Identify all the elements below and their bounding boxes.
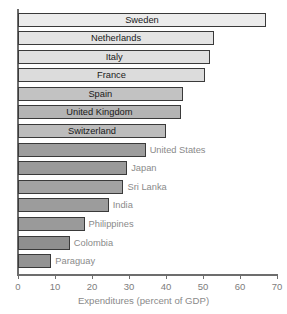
x-axis-tick-label: 60 [225,281,255,292]
bar-row: Japan [0,160,287,179]
bar-row: Italy [0,48,287,67]
bar-row: Spain [0,85,287,104]
x-axis-tick-label: 0 [3,281,33,292]
bar-label-inside: Netherlands [18,31,214,45]
bar-row: India [0,197,287,216]
bar[interactable] [18,254,51,268]
x-axis-tick-label: 20 [77,281,107,292]
bar-row: Netherlands [0,30,287,49]
x-axis-tick [277,274,278,279]
bar-label-outside: Paraguay [55,254,95,268]
bar-label-inside: France [18,68,205,82]
bar-label-inside: Italy [18,50,210,64]
bar-label-outside: Colombia [74,236,113,250]
bar-label-outside: India [113,198,133,212]
bar-row: Sweden [0,11,287,30]
plot-area: SwedenNetherlandsItalyFranceSpainUnited … [0,0,287,314]
bar-label-outside: United States [150,143,206,157]
bar-label-inside: Switzerland [18,124,166,138]
bar-label-inside: Sweden [18,13,266,27]
x-axis-tick [203,274,204,279]
x-axis-tick [18,274,19,279]
bar[interactable] [18,143,146,157]
bar-row: Switzerland [0,123,287,142]
bar[interactable] [18,236,70,250]
bar[interactable] [18,198,109,212]
x-axis-tick-label: 10 [40,281,70,292]
bar-chart: SwedenNetherlandsItalyFranceSpainUnited … [0,0,287,314]
bar-row: United Kingdom [0,104,287,123]
x-axis-tick-label: 70 [262,281,287,292]
bar-label-outside: Sri Lanka [127,180,166,194]
x-axis-title: Expenditures (percent of GDP) [0,295,287,306]
bar[interactable] [18,161,127,175]
bar[interactable] [18,180,123,194]
bar-label-inside: Spain [18,87,183,101]
x-axis-tick-label: 40 [151,281,181,292]
bar-row: France [0,67,287,86]
x-axis-tick [129,274,130,279]
x-axis-tick-label: 30 [114,281,144,292]
bar-label-outside: Japan [131,161,156,175]
bar-label-inside: United Kingdom [18,105,181,119]
x-axis-tick [166,274,167,279]
bars-layer: SwedenNetherlandsItalyFranceSpainUnited … [0,11,287,271]
x-axis-tick [55,274,56,279]
bar-row: United States [0,141,287,160]
bar-label-outside: Philippines [89,217,134,231]
bar-row: Paraguay [0,253,287,272]
bar-row: Philippines [0,216,287,235]
x-axis-tick [92,274,93,279]
bar-row: Sri Lanka [0,178,287,197]
bar-row: Colombia [0,234,287,253]
bar[interactable] [18,217,85,231]
x-axis-tick-label: 50 [188,281,218,292]
x-axis-tick [240,274,241,279]
